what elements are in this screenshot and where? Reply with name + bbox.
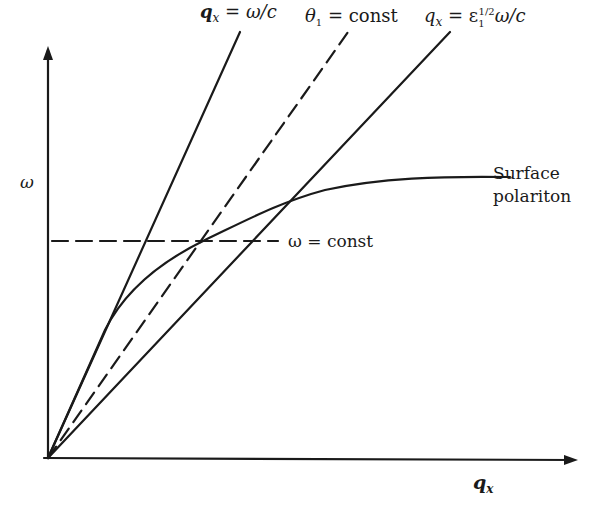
medium-light-line-label: qx = ε11/2ω/c: [424, 5, 525, 29]
medium-light-line: [48, 32, 450, 458]
surface-polariton-label-1: Surface: [493, 163, 560, 183]
theta-const-label: θ1 = const: [305, 5, 398, 28]
x-axis: [44, 458, 574, 460]
y-axis-label: ω: [20, 172, 34, 192]
omega-const-label: ω = const: [288, 231, 373, 251]
dispersion-diagram: ω qx qx = ω/c θ1 = const qx = ε11/2ω/c S…: [0, 0, 601, 509]
light-line-label: qx = ω/c: [200, 1, 277, 25]
surface-polariton-label-2: polariton: [493, 186, 571, 206]
x-axis-label: qx: [473, 471, 494, 496]
surface-polariton-curve: [48, 177, 510, 458]
